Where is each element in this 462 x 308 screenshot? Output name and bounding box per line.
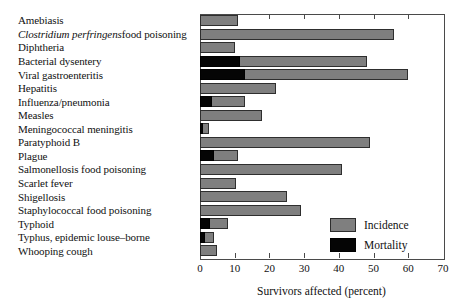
x-tick-label: 0 xyxy=(197,262,203,274)
bar-row xyxy=(200,41,443,55)
x-tick-label: 70 xyxy=(438,262,449,274)
bar-row xyxy=(200,163,443,177)
chart-legend: Incidence Mortality xyxy=(330,218,434,258)
category-label-plain: Diphtheria xyxy=(18,42,64,53)
category-label-column: Amebiasis Clostridium perfringens food p… xyxy=(18,14,196,258)
incidence-bar xyxy=(200,83,276,94)
incidence-bar xyxy=(200,164,342,175)
category-label: Clostridium perfringens food poisoning xyxy=(18,28,196,42)
category-label: Whooping cough xyxy=(18,245,196,259)
category-label-plain: Amebiasis xyxy=(18,15,64,26)
category-label: Viral gastroenteritis xyxy=(18,68,196,82)
category-label: Meningococcal meningitis xyxy=(18,123,196,137)
mortality-bar xyxy=(200,150,214,161)
category-label-italic: Clostridium perfringens xyxy=(18,29,122,40)
mortality-bar xyxy=(200,56,240,67)
mortality-bar xyxy=(200,96,212,107)
category-label-plain: Scarlet fever xyxy=(18,178,73,189)
category-label-plain: Typhoid xyxy=(18,219,54,230)
mortality-swatch-icon xyxy=(330,238,356,252)
mortality-bar xyxy=(200,218,210,229)
category-label-plain: Whooping cough xyxy=(18,246,93,257)
category-label-plain: Hepatitis xyxy=(18,83,57,94)
bar-row xyxy=(200,95,443,109)
category-label: Scarlet fever xyxy=(18,177,196,191)
incidence-bar xyxy=(200,137,370,148)
x-tick-labels: 010203040506070 xyxy=(200,262,443,276)
category-label-plain: Salmonellosis food poisoning xyxy=(18,164,146,175)
category-label: Hepatitis xyxy=(18,82,196,96)
bar-row xyxy=(200,149,443,163)
incidence-bar xyxy=(200,15,238,26)
category-label-plain: Influenza/pneumonia xyxy=(18,97,110,108)
category-label-plain: Viral gastroenteritis xyxy=(18,70,103,81)
bar-row xyxy=(200,204,443,218)
mortality-bar xyxy=(200,123,203,134)
incidence-swatch-icon xyxy=(330,218,356,232)
incidence-bar xyxy=(200,42,235,53)
category-label: Plague xyxy=(18,150,196,164)
bar-row xyxy=(200,55,443,69)
x-tick-label: 30 xyxy=(299,262,310,274)
x-tick-label: 50 xyxy=(368,262,379,274)
category-label-plain: Staphylococcal food poisoning xyxy=(18,205,151,216)
incidence-bar xyxy=(200,178,236,189)
incidence-bar xyxy=(200,245,217,256)
category-label: Amebiasis xyxy=(18,14,196,28)
category-label-plain: Plague xyxy=(18,151,47,162)
category-label: Diphtheria xyxy=(18,41,196,55)
category-label: Salmonellosis food poisoning xyxy=(18,163,196,177)
mortality-bar xyxy=(200,232,205,243)
category-label-plain: Paratyphoid B xyxy=(18,137,80,148)
horizontal-bar-chart: Amebiasis Clostridium perfringens food p… xyxy=(0,0,462,308)
x-axis-title: Survivors affected (percent) xyxy=(200,285,443,297)
bar-row xyxy=(200,177,443,191)
category-label: Shigellosis xyxy=(18,190,196,204)
legend-label: Mortality xyxy=(364,239,407,251)
legend-item-mortality: Mortality xyxy=(330,238,434,252)
incidence-bar xyxy=(200,205,301,216)
category-label: Paratyphoid B xyxy=(18,136,196,150)
incidence-bar xyxy=(200,110,262,121)
bar-row xyxy=(200,122,443,136)
x-tick-label: 40 xyxy=(333,262,344,274)
category-label-plain: Shigellosis xyxy=(18,192,65,203)
category-label-plain: Bacterial dysentery xyxy=(18,56,101,67)
bar-row xyxy=(200,28,443,42)
legend-label: Incidence xyxy=(364,219,409,231)
category-label: Typhoid xyxy=(18,217,196,231)
bar-row xyxy=(200,14,443,28)
x-tick-label: 60 xyxy=(403,262,414,274)
category-label: Bacterial dysentery xyxy=(18,55,196,69)
bar-row xyxy=(200,190,443,204)
category-label: Staphylococcal food poisoning xyxy=(18,204,196,218)
category-label-plain: Typhus, epidemic louse–borne xyxy=(18,232,150,243)
x-tick-label: 10 xyxy=(229,262,240,274)
legend-item-incidence: Incidence xyxy=(330,218,434,232)
x-tick-label: 20 xyxy=(264,262,275,274)
bar-row xyxy=(200,82,443,96)
category-label: Measles xyxy=(18,109,196,123)
bar-row xyxy=(200,68,443,82)
category-label-plain: food poisoning xyxy=(122,29,187,40)
bar-row xyxy=(200,136,443,150)
mortality-bar xyxy=(200,69,245,80)
category-label: Influenza/pneumonia xyxy=(18,95,196,109)
incidence-bar xyxy=(200,191,287,202)
category-label: Typhus, epidemic louse–borne xyxy=(18,231,196,245)
bar-row xyxy=(200,109,443,123)
category-label-plain: Measles xyxy=(18,110,53,121)
incidence-bar xyxy=(200,29,394,40)
category-label-plain: Meningococcal meningitis xyxy=(18,124,133,135)
